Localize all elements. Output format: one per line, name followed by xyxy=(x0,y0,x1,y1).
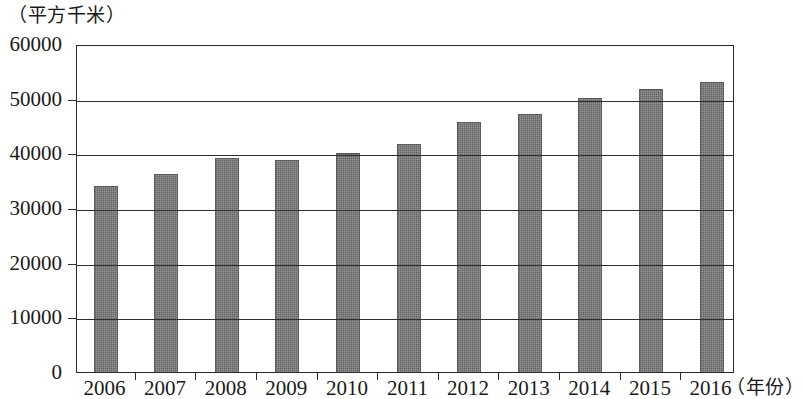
x-axis-tick-label: 2008 xyxy=(191,377,261,399)
bar xyxy=(518,114,542,372)
gridline xyxy=(77,319,733,320)
plot-area xyxy=(76,45,734,373)
y-axis-tick-label: 20000 xyxy=(0,253,70,274)
y-axis-tick-label: 50000 xyxy=(0,89,70,110)
bar xyxy=(700,82,724,372)
x-axis-tick-label: 2009 xyxy=(251,377,321,399)
gridline xyxy=(77,101,733,102)
x-axis-tick-label: 2013 xyxy=(494,377,564,399)
y-axis-tick-label: 0 xyxy=(0,362,70,383)
y-axis-tick-mark xyxy=(68,264,76,265)
x-axis-tick-label: 2014 xyxy=(554,377,624,399)
y-axis-unit-label: （平方千米） xyxy=(8,4,125,28)
y-axis-tick-mark xyxy=(68,154,76,155)
y-axis-tick-mark xyxy=(68,318,76,319)
x-axis-tick-label: 2007 xyxy=(130,377,200,399)
bar xyxy=(94,186,118,372)
y-axis-tick-label: 60000 xyxy=(0,34,70,55)
bar xyxy=(154,174,178,372)
gridline xyxy=(77,155,733,156)
y-axis-tick-label: 30000 xyxy=(0,198,70,219)
bar-chart: （平方千米） 0100002000030000400005000060000 2… xyxy=(0,0,804,399)
bar xyxy=(639,89,663,372)
bar xyxy=(397,144,421,373)
bar xyxy=(457,122,481,372)
x-axis-tick-label: 2012 xyxy=(433,377,503,399)
y-axis-tick-mark xyxy=(68,209,76,210)
y-axis-tick-label: 10000 xyxy=(0,307,70,328)
x-axis-tick-label: 2010 xyxy=(312,377,382,399)
x-axis-tick-label: 2015 xyxy=(615,377,685,399)
x-axis-tick-label: 2011 xyxy=(373,377,443,399)
bar xyxy=(578,98,602,372)
y-axis-tick-mark xyxy=(68,100,76,101)
x-axis-tick-label: 2006 xyxy=(70,377,140,399)
y-axis-tick-label: 40000 xyxy=(0,143,70,164)
bar xyxy=(336,153,360,372)
bar xyxy=(275,160,299,372)
gridline xyxy=(77,210,733,211)
bars-layer xyxy=(77,46,733,372)
x-axis-unit-label: （年份） xyxy=(726,377,804,399)
gridline xyxy=(77,265,733,266)
